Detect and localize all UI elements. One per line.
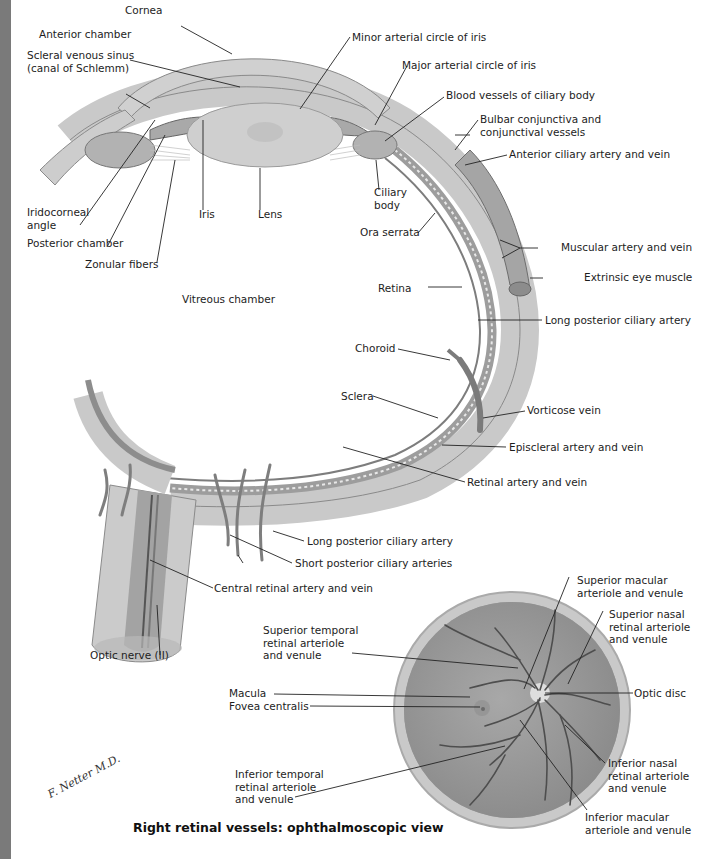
label-extrinsic-eye-muscle: Extrinsic eye muscle [584,271,692,284]
label-central-retinal-artery: Central retinal artery and vein [214,582,373,595]
label-optic-disc: Optic disc [634,687,686,700]
label-posterior-chamber: Posterior chamber [27,237,123,250]
label-ciliary-body: Ciliary body [374,186,407,211]
label-iris: Iris [199,208,215,221]
label-inferior-nasal: Inferior nasal retinal arteriole and ven… [608,757,689,795]
label-episcleral-artery: Episcleral artery and vein [509,441,643,454]
label-optic-nerve: Optic nerve (II) [90,649,169,662]
eye-cross-section [40,59,531,662]
label-scleral-venous-sinus: Scleral venous sinus (canal of Schlemm) [27,49,134,74]
label-retina: Retina [378,282,411,295]
label-vorticose-vein: Vorticose vein [527,404,601,417]
label-zonular-fibers: Zonular fibers [85,258,158,271]
label-cornea: Cornea [125,4,162,17]
label-muscular-artery: Muscular artery and vein [561,241,692,254]
label-vitreous-chamber: Vitreous chamber [182,293,275,306]
label-minor-arterial-circle: Minor arterial circle of iris [352,31,486,44]
figure-caption: Right retinal vessels: ophthalmoscopic v… [133,820,444,835]
label-choroid: Choroid [355,342,396,355]
label-bulbar-conjunctiva: Bulbar conjunctiva and conjunctival vess… [480,113,601,138]
label-inferior-temporal: Inferior temporal retinal arteriole and … [235,768,324,806]
label-ora-serrata: Ora serrata [360,226,420,239]
eye-anatomy-illustration [0,0,713,859]
label-superior-temporal: Superior temporal retinal arteriole and … [263,624,358,662]
label-superior-macular: Superior macular arteriole and venule [577,574,683,599]
label-anterior-ciliary-artery: Anterior ciliary artery and vein [509,148,670,161]
label-iridocorneal-angle: Iridocorneal angle [27,206,89,231]
label-lens: Lens [258,208,282,221]
label-major-arterial-circle: Major arterial circle of iris [402,59,536,72]
label-superior-nasal: Superior nasal retinal arteriole and ven… [609,608,690,646]
label-macula: Macula [229,687,266,700]
label-anterior-chamber: Anterior chamber [39,28,131,41]
label-long-posterior-ciliary-artery-upper: Long posterior ciliary artery [545,314,691,327]
label-short-posterior-ciliary-arteries: Short posterior ciliary arteries [295,557,452,570]
label-inferior-macular: Inferior macular arteriole and venule [585,811,691,836]
label-ciliary-blood-vessels: Blood vessels of ciliary body [446,89,595,102]
label-sclera: Sclera [341,390,374,403]
label-long-posterior-ciliary-artery-lower: Long posterior ciliary artery [307,535,453,548]
fundus-view [394,592,630,828]
label-retinal-artery: Retinal artery and vein [467,476,587,489]
label-fovea-centralis: Fovea centralis [229,700,309,713]
